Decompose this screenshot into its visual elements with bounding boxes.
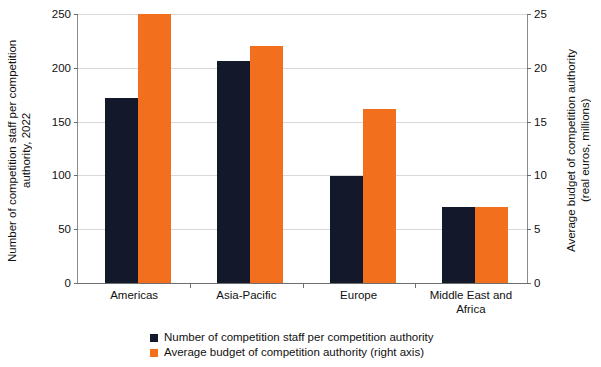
left-tick-label: 150 <box>52 116 71 128</box>
bar-group <box>330 14 396 283</box>
plot-area: 050100150200250 0510152025 <box>78 14 527 283</box>
bar-staff <box>217 61 250 283</box>
left-tick-mark <box>74 175 78 176</box>
x-category-label: Europe <box>303 289 415 303</box>
right-tick-mark <box>527 68 531 69</box>
left-tick-label: 200 <box>52 62 71 74</box>
left-tick-mark <box>74 122 78 123</box>
bar-budget <box>250 46 283 283</box>
right-axis-title: Average budget of competition authority … <box>565 8 597 293</box>
right-tick-label: 15 <box>534 116 547 128</box>
bar-budget <box>363 109 396 283</box>
bar-chart-figure: Number of competition staff per competit… <box>0 0 601 367</box>
left-tick-mark <box>74 229 78 230</box>
left-tick-label: 100 <box>52 169 71 181</box>
right-tick-label: 10 <box>534 169 547 181</box>
left-tick-mark <box>74 68 78 69</box>
bar-group <box>217 14 283 283</box>
right-tick-mark <box>527 175 531 176</box>
legend-item: Number of competition staff per competit… <box>150 330 434 345</box>
left-axis-line <box>77 14 78 283</box>
bar-staff <box>105 98 138 283</box>
bar-group <box>442 14 508 283</box>
bar-group <box>105 14 171 283</box>
x-axis-tick <box>190 283 191 288</box>
chart-legend: Number of competition staff per competit… <box>150 330 434 360</box>
right-tick-mark <box>527 14 531 15</box>
left-tick-mark <box>74 283 78 284</box>
legend-swatch-icon <box>150 349 158 357</box>
right-tick-label: 20 <box>534 62 547 74</box>
right-axis-line <box>527 14 528 283</box>
x-axis-tick <box>303 283 304 288</box>
bar-budget <box>138 14 171 283</box>
right-tick-label: 0 <box>534 277 540 289</box>
legend-item: Average budget of competition authority … <box>150 345 434 360</box>
x-axis-tick <box>415 283 416 288</box>
bar-staff <box>442 207 475 283</box>
x-category-label: Middle East and Africa <box>415 289 527 316</box>
right-tick-label: 5 <box>534 223 540 235</box>
left-tick-label: 50 <box>58 223 71 235</box>
left-tick-mark <box>74 14 78 15</box>
left-axis-title: Number of competition staff per competit… <box>6 8 36 293</box>
x-category-label: Asia-Pacific <box>190 289 302 303</box>
right-tick-mark <box>527 229 531 230</box>
legend-swatch-icon <box>150 334 158 342</box>
x-category-label: Americas <box>78 289 190 303</box>
bar-staff <box>330 176 363 283</box>
left-tick-label: 0 <box>65 277 71 289</box>
right-tick-mark <box>527 122 531 123</box>
bar-budget <box>475 207 508 283</box>
right-tick-mark <box>527 283 531 284</box>
legend-label: Average budget of competition authority … <box>164 345 424 360</box>
left-tick-label: 250 <box>52 8 71 20</box>
legend-label: Number of competition staff per competit… <box>164 330 434 345</box>
right-tick-label: 25 <box>534 8 547 20</box>
